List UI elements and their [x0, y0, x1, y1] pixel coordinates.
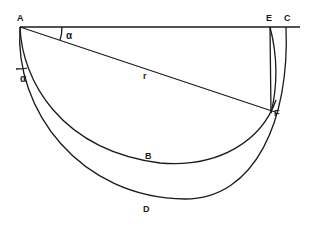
label-c: C	[284, 13, 291, 23]
label-f: F	[274, 108, 280, 118]
chord-af	[20, 27, 275, 112]
geometry-diagram: A E C F B D r α α	[0, 0, 311, 226]
label-b: B	[145, 151, 152, 161]
arc-adc	[20, 27, 287, 199]
label-alpha-left: α	[20, 73, 27, 84]
angle-arc-top	[60, 27, 62, 40]
angle-arc-left	[16, 68, 27, 69]
segment-ef	[270, 27, 271, 113]
label-alpha-top: α	[66, 30, 73, 41]
label-e: E	[266, 13, 272, 23]
arc-abf	[20, 27, 276, 164]
label-r: r	[143, 71, 147, 81]
label-a: A	[17, 13, 24, 23]
label-d: D	[143, 204, 150, 214]
